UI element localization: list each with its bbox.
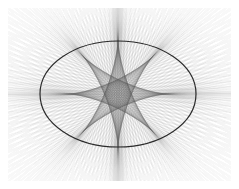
astroid-envelope-figure (0, 0, 239, 189)
figure-container (0, 0, 239, 189)
